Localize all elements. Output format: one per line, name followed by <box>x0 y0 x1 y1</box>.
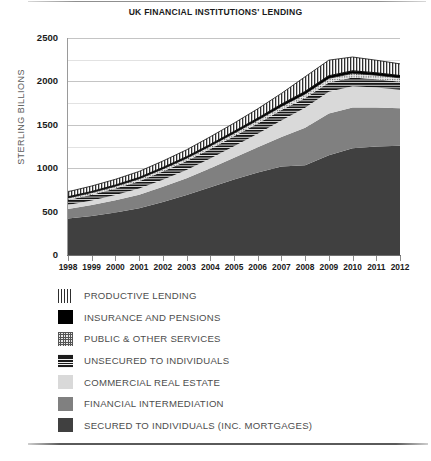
y-tick-label: 2500 <box>0 32 58 43</box>
x-tickmark <box>400 256 401 261</box>
chart-legend: PRODUCTIVE LENDINGINSURANCE AND PENSIONS… <box>58 285 418 436</box>
vertical-lines-swatch <box>58 289 73 303</box>
x-tickmark <box>115 256 116 261</box>
x-tickmark <box>187 256 188 261</box>
mid-gray-swatch <box>58 397 73 411</box>
legend-item-label: UNSECURED TO INDIVIDUALS <box>84 355 229 366</box>
y-tick-label: 500 <box>0 206 58 217</box>
solid-black-swatch <box>58 310 73 324</box>
dark-gray-swatch <box>58 418 73 432</box>
x-tickmark <box>305 256 306 261</box>
legend-item-label: COMMERCIAL REAL ESTATE <box>84 377 220 388</box>
horizontal-lines-swatch <box>58 354 73 368</box>
stacked-area-series <box>68 38 400 255</box>
top-divider <box>28 1 426 2</box>
legend-item-label: PRODUCTIVE LENDING <box>84 290 197 301</box>
legend-item-label: INSURANCE AND PENSIONS <box>84 312 221 323</box>
x-tickmark <box>234 256 235 261</box>
x-tickmark <box>329 256 330 261</box>
legend-item-label: PUBLIC & OTHER SERVICES <box>84 333 221 344</box>
dotted-swatch <box>58 332 73 346</box>
y-tick-label: 1000 <box>0 162 58 173</box>
legend-item[interactable]: INSURANCE AND PENSIONS <box>58 307 418 329</box>
y-tick-label: 2000 <box>0 75 58 86</box>
chart-title: UK FINANCIAL INSTITUTIONS' LENDING <box>0 7 431 17</box>
x-tickmark <box>353 256 354 261</box>
plot-area <box>68 38 400 255</box>
legend-item[interactable]: COMMERCIAL REAL ESTATE <box>58 371 418 393</box>
legend-item[interactable]: PRODUCTIVE LENDING <box>58 285 418 307</box>
bottom-divider <box>28 443 428 445</box>
legend-item[interactable]: SECURED TO INDIVIDUALS (INC. MORTGAGES) <box>58 415 418 437</box>
legend-item[interactable]: FINANCIAL INTERMEDIATION <box>58 393 418 415</box>
x-tickmark <box>92 256 93 261</box>
legend-item-label: SECURED TO INDIVIDUALS (INC. MORTGAGES) <box>84 420 312 431</box>
x-tickmark <box>139 256 140 261</box>
x-tickmark <box>68 256 69 261</box>
chart-figure: UK FINANCIAL INSTITUTIONS' LENDING STERL… <box>0 0 431 461</box>
x-tickmark <box>163 256 164 261</box>
y-tick-label: 0 <box>0 249 58 260</box>
x-tick-label: 2012 <box>383 262 417 272</box>
legend-item[interactable]: UNSECURED TO INDIVIDUALS <box>58 350 418 372</box>
y-tick-label: 1500 <box>0 119 58 130</box>
legend-item[interactable]: PUBLIC & OTHER SERVICES <box>58 328 418 350</box>
x-tickmark <box>281 256 282 261</box>
light-gray-swatch <box>58 375 73 389</box>
x-tickmark <box>210 256 211 261</box>
x-tickmark <box>258 256 259 261</box>
x-tickmark <box>376 256 377 261</box>
legend-item-label: FINANCIAL INTERMEDIATION <box>84 398 224 409</box>
